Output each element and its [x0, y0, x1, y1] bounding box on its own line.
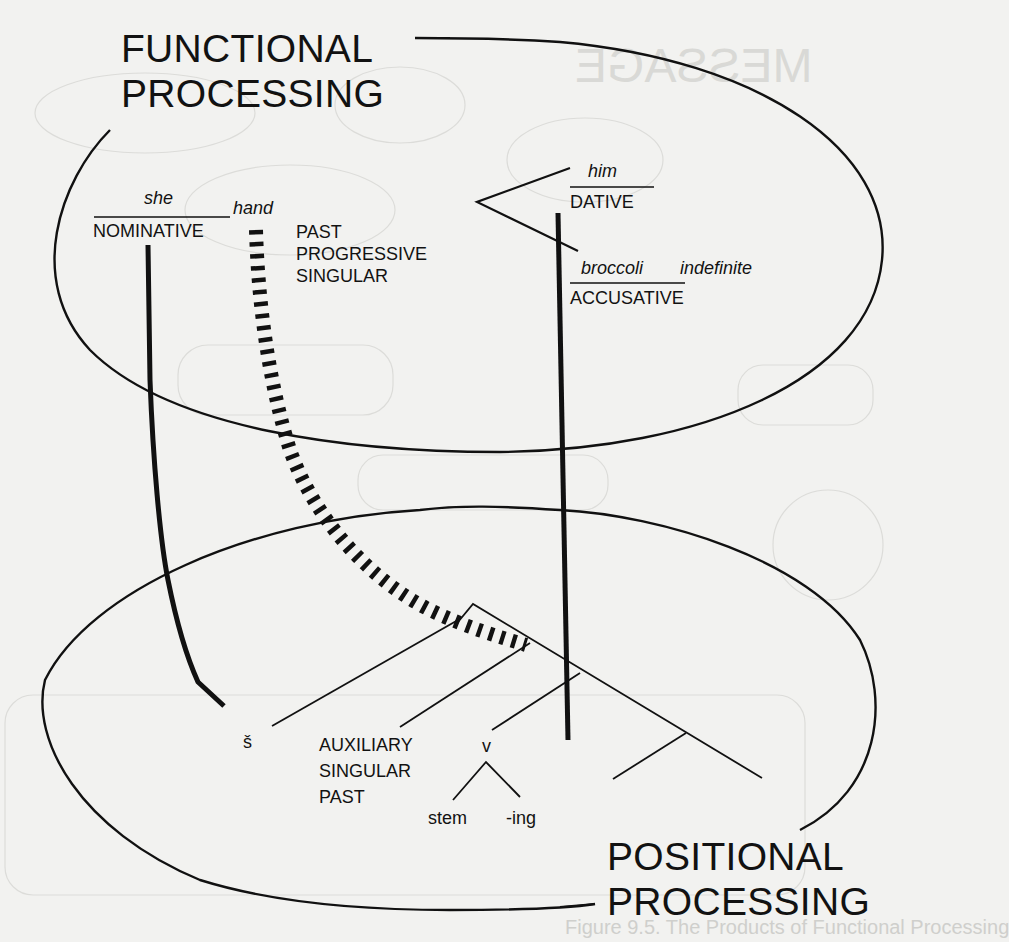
nominative-case: NOMINATIVE [93, 222, 204, 240]
accusative-case: ACCUSATIVE [570, 289, 684, 307]
functional-title-line1: FUNCTIONAL [121, 26, 384, 71]
dative-case: DATIVE [570, 193, 634, 211]
branch-object [613, 733, 686, 779]
accusative-word: broccoli [581, 259, 643, 277]
branch-verb-parts [453, 762, 520, 800]
nominative-link [148, 245, 224, 706]
feature-number: SINGULAR [296, 265, 427, 287]
positional-title-line1: POSITIONAL [607, 834, 870, 879]
verb-features: PAST PROGRESSIVE SINGULAR [296, 221, 427, 287]
auxiliary-features: AUXILIARY SINGULAR PAST [319, 732, 413, 810]
verb-stem: stem [428, 809, 467, 827]
branch-auxiliary [400, 643, 530, 727]
dative-word: him [588, 162, 617, 180]
aux-category: AUXILIARY [319, 732, 413, 758]
branch-subject [272, 620, 458, 726]
feature-aspect: PROGRESSIVE [296, 243, 427, 265]
accusative-modifier: indefinite [680, 259, 752, 277]
dative-accusative-branch [477, 168, 578, 251]
aux-number: SINGULAR [319, 758, 413, 784]
tree-spine [458, 604, 762, 778]
subject-slot: š [243, 733, 252, 751]
positional-title: POSITIONAL PROCESSING [607, 834, 870, 924]
verb-word: hand [233, 199, 273, 217]
verb-suffix: -ing [506, 809, 536, 827]
positional-title-leader [560, 904, 595, 907]
functional-title-line2: PROCESSING [121, 71, 384, 116]
nominative-word: she [144, 189, 173, 207]
feature-tense: PAST [296, 221, 427, 243]
functional-title: FUNCTIONAL PROCESSING [121, 26, 384, 116]
verb-node: v [482, 737, 491, 755]
positional-title-line2: PROCESSING [607, 879, 870, 924]
aux-tense: PAST [319, 784, 413, 810]
